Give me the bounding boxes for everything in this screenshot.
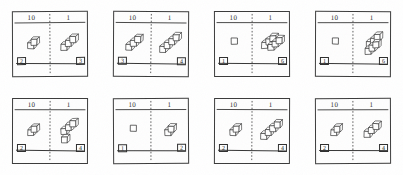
ones-answer-box[interactable]: 6: [379, 56, 388, 64]
ones-column-header: 1: [353, 100, 390, 110]
ones-answer-box[interactable]: 6: [278, 56, 287, 64]
panel-slot: 10116: [302, 0, 403, 88]
place-value-panel[interactable]: 10124: [12, 98, 88, 164]
panel-slot: 10134: [101, 0, 202, 88]
ones-column-header: 1: [50, 12, 87, 22]
ones-column-header: 1: [50, 100, 87, 110]
ones-column-header: 1: [353, 12, 390, 22]
tens-answer-box[interactable]: 3: [118, 56, 127, 64]
tens-answer-box[interactable]: 2: [219, 144, 228, 152]
answer-baseline: [17, 63, 85, 64]
panel-slot: 10112: [101, 88, 202, 176]
tens-column-header: 10: [316, 12, 353, 22]
answer-baseline: [16, 150, 84, 151]
place-value-panel[interactable]: 10123: [12, 11, 88, 77]
answer-baseline: [218, 150, 286, 151]
panel-slot: 10124: [202, 88, 303, 176]
answer-baseline: [117, 63, 185, 64]
panel-slot: 10123: [0, 0, 101, 88]
panel-slot: 10116: [202, 0, 303, 88]
panel-slot: 10124: [302, 88, 403, 176]
tens-answer-box[interactable]: 1: [320, 56, 329, 64]
tens-answer-box[interactable]: 1: [219, 56, 228, 64]
tens-column-header: 10: [215, 12, 252, 22]
tens-column-header: 10: [13, 12, 50, 22]
answer-baseline: [117, 151, 185, 152]
tens-answer-box[interactable]: 2: [320, 144, 329, 152]
tens-answer-box[interactable]: 1: [118, 144, 127, 152]
ones-answer-box[interactable]: 3: [76, 56, 85, 64]
ones-answer-box[interactable]: 2: [177, 144, 186, 152]
place-value-panel[interactable]: 10124: [214, 98, 290, 164]
tens-column-header: 10: [215, 100, 252, 110]
answer-baseline: [218, 63, 286, 64]
place-value-panel[interactable]: 10116: [214, 11, 290, 77]
place-value-panel[interactable]: 10124: [315, 98, 391, 164]
tens-answer-box[interactable]: 2: [17, 56, 26, 64]
ones-answer-box[interactable]: 4: [379, 144, 388, 152]
tens-answer-box[interactable]: 2: [17, 144, 26, 152]
tens-column-header: 10: [316, 100, 353, 110]
place-value-panel[interactable]: 10116: [315, 11, 391, 77]
tens-column-header: 10: [114, 12, 151, 22]
ones-answer-box[interactable]: 4: [76, 144, 85, 152]
column-divider: [151, 101, 152, 160]
ones-column-header: 1: [252, 100, 289, 110]
tens-column-header: 10: [13, 100, 50, 110]
ones-answer-box[interactable]: 4: [278, 144, 287, 152]
place-value-panel[interactable]: 10134: [113, 11, 189, 77]
tens-column-header: 10: [114, 100, 151, 110]
worksheet-grid: 1012310134101161011610124101121012410124: [0, 0, 403, 175]
ones-column-header: 1: [252, 12, 289, 22]
panel-slot: 10124: [0, 88, 101, 176]
ones-column-header: 1: [151, 12, 188, 22]
ones-column-header: 1: [151, 100, 188, 110]
place-value-panel[interactable]: 10112: [113, 98, 189, 164]
ones-answer-box[interactable]: 4: [177, 56, 186, 64]
